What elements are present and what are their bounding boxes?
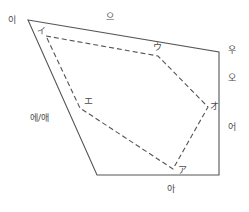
vowel-chart-figure: 이 으 우 오 어 아 에/애 イ ウ エ オ ア — [0, 0, 249, 212]
label-korean-o: 오 — [228, 73, 236, 83]
korean-vowel-space-polygon — [28, 20, 219, 175]
label-japanese-e: エ — [84, 96, 93, 106]
japanese-vowel-space-polygon — [46, 36, 208, 169]
label-korean-eo: 어 — [228, 122, 236, 132]
label-japanese-i: イ — [37, 26, 46, 36]
label-japanese-u: ウ — [153, 42, 162, 52]
label-japanese-o: オ — [210, 101, 219, 111]
label-korean-eu: 으 — [106, 12, 114, 22]
label-korean-a: 아 — [167, 184, 175, 194]
label-korean-i: 이 — [8, 15, 16, 25]
label-korean-e-ae: 에/애 — [30, 113, 49, 123]
label-japanese-a: ア — [178, 165, 187, 175]
label-korean-u: 우 — [228, 45, 236, 55]
